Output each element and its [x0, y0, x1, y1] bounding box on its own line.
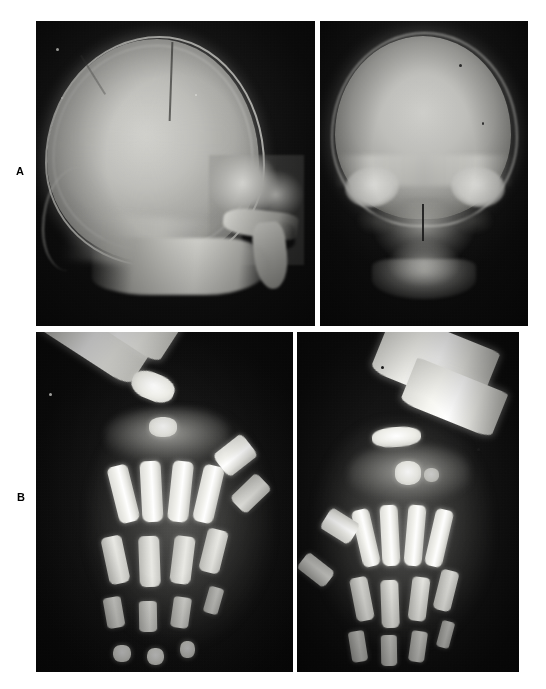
distal-phalanx-2	[113, 645, 131, 662]
panel-label-b: B	[17, 492, 25, 503]
distal-phalanx-4	[180, 641, 195, 658]
film-artifact-speck	[417, 414, 420, 417]
nasal-septum	[422, 204, 424, 241]
hamate-ossification-center	[424, 468, 440, 482]
middle-phalanx-3	[139, 600, 158, 631]
capitate-ossification-center	[149, 417, 177, 437]
middle-phalanx-3	[381, 634, 397, 665]
radiograph-hand-right	[297, 332, 519, 672]
metacarpal-3	[140, 461, 164, 523]
mandible	[372, 259, 476, 299]
metacarpal-3	[380, 505, 401, 567]
proximal-phalanx-3	[138, 536, 160, 588]
mandible	[92, 238, 271, 296]
figure-plate: A	[0, 0, 546, 689]
radiograph-skull-lateral	[36, 21, 315, 326]
radiograph-skull-ap	[320, 21, 528, 326]
distal-phalanx-3	[147, 648, 165, 665]
proximal-phalanx-3	[381, 580, 400, 628]
film-artifact-speck	[477, 448, 480, 451]
radiograph-hand-left	[36, 332, 293, 672]
capitate-ossification-center	[395, 461, 422, 485]
panel-label-a: A	[16, 166, 24, 177]
